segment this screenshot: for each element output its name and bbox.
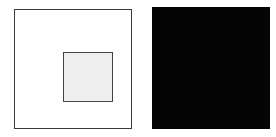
light-surround-panel	[14, 9, 132, 129]
gray-swatch-on-white	[63, 52, 113, 102]
figure-canvas	[0, 0, 276, 137]
dark-surround-panel	[152, 7, 270, 129]
